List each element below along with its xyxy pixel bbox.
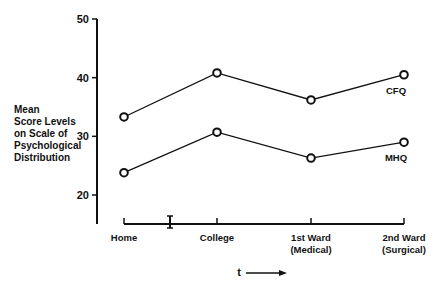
data-point bbox=[400, 138, 408, 146]
x-tick-label: (Medical) bbox=[290, 244, 331, 255]
axis-labels: HomeCollege1st Ward(Medical)2nd Ward(Sur… bbox=[111, 232, 426, 278]
data-point bbox=[213, 128, 221, 136]
x-tick-label: 2nd Ward bbox=[383, 232, 426, 243]
y-tick-label: 20 bbox=[77, 189, 89, 201]
series-label-cfq: CFQ bbox=[386, 85, 406, 96]
data-point bbox=[213, 69, 221, 77]
line-chart: 20304050 CFQMHQ HomeCollege1st Ward(Medi… bbox=[0, 0, 438, 292]
series-lines: CFQMHQ bbox=[120, 69, 408, 176]
data-point bbox=[307, 96, 315, 104]
x-tick-label: College bbox=[200, 232, 234, 243]
x-tick-label: (Surgical) bbox=[382, 244, 426, 255]
y-tick-label: 40 bbox=[77, 72, 89, 84]
data-point bbox=[307, 154, 315, 162]
data-point bbox=[120, 113, 128, 121]
series-line-mhq bbox=[124, 132, 404, 172]
series-label-mhq: MHQ bbox=[385, 152, 407, 163]
x-tick-label: 1st Ward bbox=[291, 232, 331, 243]
x-axis-label: t bbox=[237, 266, 241, 278]
data-point bbox=[400, 71, 408, 79]
y-tick-label: 30 bbox=[77, 130, 89, 142]
series-line-cfq bbox=[124, 73, 404, 117]
arrow-head-icon bbox=[279, 270, 287, 276]
x-tick-label: Home bbox=[111, 232, 137, 243]
y-tick-label: 50 bbox=[77, 13, 89, 25]
data-point bbox=[120, 169, 128, 177]
